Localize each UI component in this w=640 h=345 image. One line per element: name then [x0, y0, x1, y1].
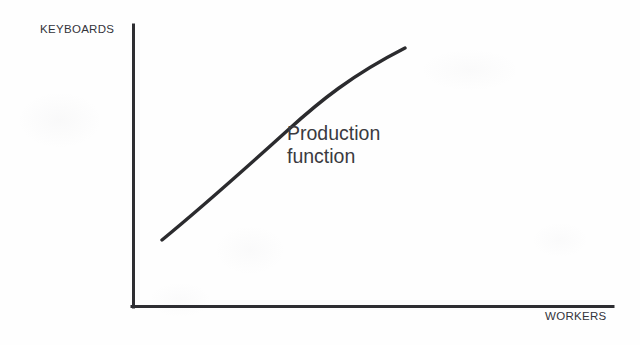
- plot-area: [0, 0, 640, 345]
- x-axis-label: WORKERS: [545, 311, 607, 323]
- production-function-figure: KEYBOARDS WORKERS Production function: [0, 0, 640, 345]
- production-function-annotation: Production function: [287, 122, 380, 168]
- y-axis-label: KEYBOARDS: [40, 24, 114, 36]
